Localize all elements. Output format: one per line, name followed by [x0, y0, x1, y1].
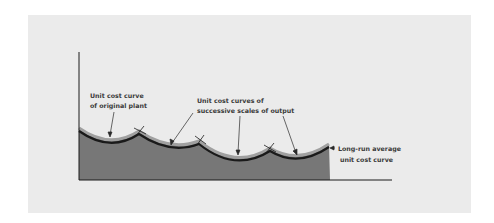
label-original-plant-2: of original plant [90, 102, 147, 110]
label-successive-2: successive scales of output [197, 107, 294, 115]
label-long-run-2: unit cost curve [340, 156, 393, 163]
label-long-run-1: Long-run average [338, 145, 401, 153]
label-original-plant-1: Unit cost curve [90, 92, 144, 99]
label-successive-1: Unit cost curves of [197, 97, 264, 104]
cost-curve-diagram: Unit cost curve of original plant Unit c… [0, 0, 494, 223]
